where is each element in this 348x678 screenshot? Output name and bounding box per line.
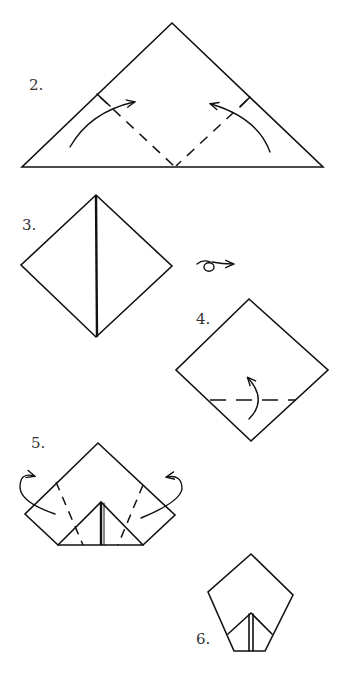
step-3-label: 3.	[22, 216, 36, 234]
step-6-inner-triangle	[228, 613, 272, 634]
step-2-right-fold-line	[176, 100, 247, 166]
origami-diagram: 2. 3. 4. 5.	[0, 0, 348, 678]
step-2-label: 2.	[29, 76, 43, 94]
step-6-outline	[208, 554, 293, 651]
step-5-label: 5.	[31, 434, 45, 452]
step-4-fold-arrow-icon	[248, 378, 258, 419]
step-5: 5.	[20, 434, 182, 545]
step-5-left-fold-behind-arrow-icon	[20, 475, 55, 514]
step-5-right-fold-behind-arrow-icon	[141, 477, 182, 519]
step-2-left-fold-arrow-icon	[70, 102, 134, 147]
step-2-triangle	[22, 23, 323, 167]
step-3: 3.	[21, 195, 172, 337]
step-3-center-seam	[96, 195, 97, 337]
step-5-right-fold-line	[118, 485, 143, 545]
step-6: 6.	[196, 554, 293, 651]
step-4-label: 4.	[196, 310, 210, 328]
step-2: 2.	[22, 23, 323, 167]
step-6-label: 6.	[196, 630, 210, 648]
step-4: 4.	[176, 299, 328, 441]
step-2-right-fold-arrow-icon	[211, 104, 270, 152]
turn-over-icon	[197, 261, 233, 271]
step-2-left-fold-line	[100, 97, 174, 166]
step-5-left-fold-line	[56, 482, 83, 545]
